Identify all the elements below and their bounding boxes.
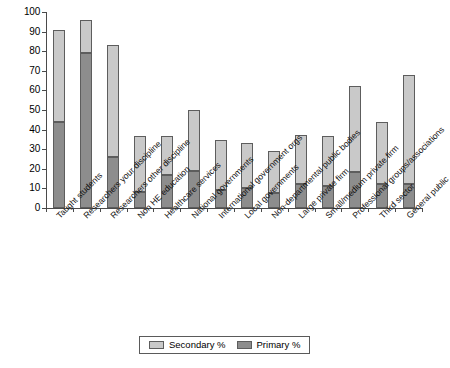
bar-segment-secondary bbox=[107, 45, 119, 157]
chart-legend: Secondary % Primary % bbox=[139, 336, 310, 354]
bar-segment-secondary bbox=[80, 20, 92, 53]
legend-label-primary: Primary % bbox=[257, 340, 301, 350]
legend-label-secondary: Secondary % bbox=[169, 340, 226, 350]
bar-segment-primary bbox=[53, 122, 65, 208]
legend-swatch-primary bbox=[237, 341, 252, 349]
legend-swatch-secondary bbox=[149, 341, 164, 349]
x-axis-tick-mark bbox=[46, 208, 47, 212]
bar-segment-secondary bbox=[53, 30, 65, 122]
legend-item-secondary: Secondary % bbox=[149, 340, 226, 350]
legend-item-primary: Primary % bbox=[237, 340, 301, 350]
bar-group bbox=[53, 30, 65, 208]
